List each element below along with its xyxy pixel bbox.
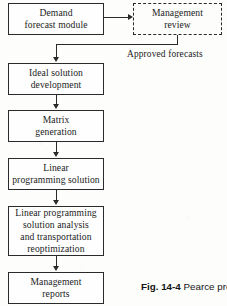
node-label-line: and transportation	[20, 231, 91, 243]
node-label-line: programming solution	[12, 174, 100, 186]
node-label-line: development	[31, 79, 82, 91]
node-label-line: Management	[152, 7, 203, 19]
edge-approved-forecasts-run	[56, 44, 178, 45]
node-label-line: forecast module	[24, 19, 87, 31]
node-demand-forecast-module: Demand forecast module	[8, 3, 104, 35]
figure-canvas: Demand forecast module Management review…	[0, 0, 227, 306]
node-label-line: reports	[42, 288, 69, 300]
node-label-line: Management	[30, 276, 81, 288]
node-label-line: Linear programming	[15, 207, 96, 219]
node-management-review: Management review	[133, 3, 222, 35]
figure-caption: Fig. 14-4 Pearce pro	[141, 281, 227, 293]
node-label-line: reoptimization	[27, 243, 84, 255]
node-linear-programming-solution: Linear programming solution	[8, 158, 104, 190]
edge-approved-forecasts-drop	[56, 44, 57, 58]
figure-caption-number: Fig. 14-4	[141, 281, 181, 292]
node-label-line: Matrix	[43, 114, 70, 126]
node-label-line: Linear	[43, 162, 69, 174]
node-label-line: solution analysis	[23, 219, 89, 231]
node-label-line: generation	[35, 126, 77, 138]
figure-caption-text: Pearce pro	[183, 281, 227, 292]
node-label-line: Ideal solution	[29, 67, 83, 79]
node-lp-solution-analysis: Linear programming solution analysis and…	[8, 206, 104, 256]
node-label-line: review	[164, 19, 191, 31]
edge-demand-to-review	[104, 17, 128, 18]
arrowhead-down-icon	[53, 200, 59, 205]
node-label-line: Demand	[39, 7, 72, 19]
arrowhead-down-icon	[53, 57, 59, 62]
node-matrix-generation: Matrix generation	[8, 110, 104, 142]
node-ideal-solution-development: Ideal solution development	[8, 63, 104, 95]
arrowhead-down-icon	[53, 266, 59, 271]
arrowhead-down-icon	[53, 104, 59, 109]
arrowhead-right-icon	[128, 14, 133, 20]
edge-label-approved-forecasts: Approved forecasts	[127, 49, 203, 60]
node-management-reports: Management reports	[8, 272, 104, 304]
arrowhead-down-icon	[53, 152, 59, 157]
